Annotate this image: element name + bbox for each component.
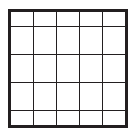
grid-cell-empty — [11, 26, 34, 54]
grid-cell-shaded — [102, 83, 125, 111]
grid-outer-frame — [8, 9, 128, 128]
grid-cell-empty — [79, 12, 102, 26]
grid-cell-empty — [34, 12, 57, 26]
grid-row — [11, 111, 125, 125]
grid-row — [11, 12, 125, 26]
grid-cell-empty — [11, 83, 34, 111]
grid-cell-empty — [79, 83, 102, 111]
grid-body — [11, 12, 125, 125]
grid-cell-shaded — [102, 26, 125, 54]
grid-cell-shaded — [79, 111, 102, 125]
grid-cell-empty — [79, 54, 102, 82]
grid-cell-empty — [11, 54, 34, 82]
grid-cell-shaded — [102, 12, 125, 26]
grid-row — [11, 54, 125, 82]
grid-cell-empty — [57, 26, 80, 54]
grid-cell-empty — [34, 83, 57, 111]
grid-row — [11, 83, 125, 111]
grid-cell-empty — [11, 12, 34, 26]
grid-cell-empty — [57, 54, 80, 82]
grid-cell-empty — [57, 12, 80, 26]
grid-cell-shaded — [102, 54, 125, 82]
grid-cell-empty — [79, 26, 102, 54]
grid-cell-empty — [57, 83, 80, 111]
grid-cell-empty — [34, 54, 57, 82]
grid-table — [11, 12, 125, 125]
grid-cell-shaded — [57, 111, 80, 125]
grid-figure — [0, 0, 136, 137]
grid-row — [11, 26, 125, 54]
grid-cell-empty — [34, 26, 57, 54]
grid-cell-shaded — [102, 111, 125, 125]
grid-cell-shaded — [34, 111, 57, 125]
grid-cell-shaded — [11, 111, 34, 125]
